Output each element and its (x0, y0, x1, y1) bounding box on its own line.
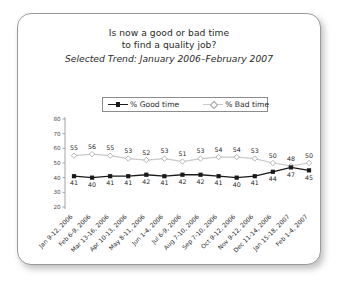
bad-time-point (107, 153, 112, 158)
good-time-point (90, 176, 94, 180)
y-axis-tick-label: 30 (53, 189, 61, 195)
good-time-point (198, 173, 202, 177)
y-axis-tick-label: 20 (53, 204, 61, 210)
bad-time-point (162, 156, 167, 161)
good-time-value-label: 40 (88, 181, 96, 188)
bad-time-point (144, 157, 149, 162)
bad-time-value-label: 56 (88, 143, 96, 150)
bad-time-value-label: 53 (197, 147, 205, 154)
good-time-point (307, 168, 311, 172)
bad-time-value-label: 50 (305, 152, 313, 159)
good-time-point (271, 170, 275, 174)
chart-plot-area: 20304050607080 5556555352535153545453504… (18, 14, 321, 265)
bad-time-value-label: 48 (287, 155, 295, 162)
bad-time-value-label: 51 (178, 150, 186, 157)
bad-time-point (180, 159, 185, 164)
x-axis-category-labels: Jan 9-12, 2006Feb 6-9, 2006Mar 13-16, 20… (37, 213, 309, 254)
y-axis: 20304050607080 (53, 116, 65, 210)
good-time-value-label: 41 (106, 179, 114, 186)
y-axis-tick-label: 50 (53, 160, 61, 166)
good-time-point (162, 174, 166, 178)
bad-time-point (198, 156, 203, 161)
bad-time-point (252, 156, 257, 161)
good-time-point (108, 174, 112, 178)
bad-time-value-label: 55 (70, 144, 78, 151)
good-time-value-label: 45 (305, 174, 313, 181)
good-time-point (289, 165, 293, 169)
y-axis-tick-label: 70 (53, 131, 61, 137)
good-time-value-label: 42 (178, 178, 186, 185)
good-time-value-label: 41 (215, 179, 223, 186)
bad-time-value-label: 54 (215, 146, 223, 153)
bad-time-point (126, 156, 131, 161)
good-time-point (72, 174, 76, 178)
good-time-value-label: 42 (197, 178, 205, 185)
bad-time-value-label: 53 (160, 147, 168, 154)
good-time-value-label: 41 (251, 179, 259, 186)
y-axis-tick-label: 40 (53, 175, 61, 181)
good-time-point (217, 174, 221, 178)
bad-time-point (270, 160, 275, 165)
y-axis-tick-label: 60 (53, 145, 61, 151)
bad-time-value-label: 54 (233, 146, 241, 153)
good-time-point (235, 176, 239, 180)
bad-time-point (89, 152, 94, 157)
bad-time-point (71, 153, 76, 158)
data-value-labels: 5556555352535153545453504850414041414241… (70, 143, 313, 188)
good-time-point (253, 174, 257, 178)
good-time-value-label: 42 (142, 178, 150, 185)
good-time-value-label: 47 (287, 171, 295, 178)
good-time-value-label: 41 (160, 179, 168, 186)
bad-time-value-label: 53 (124, 147, 132, 154)
chart-card: Is now a good or bad time to find a qual… (17, 13, 321, 265)
good-time-point (126, 174, 130, 178)
good-time-point (180, 173, 184, 177)
good-time-value-label: 40 (233, 181, 241, 188)
bad-time-value-label: 55 (106, 144, 114, 151)
bad-time-point (306, 160, 311, 165)
good-time-value-label: 41 (124, 179, 132, 186)
bad-time-value-label: 50 (269, 152, 277, 159)
bad-time-value-label: 52 (142, 149, 150, 156)
y-axis-tick-label: 80 (53, 116, 61, 122)
good-time-point (144, 173, 148, 177)
line-chart-svg: 20304050607080 5556555352535153545453504… (18, 14, 321, 265)
bad-time-point (234, 154, 239, 159)
bad-time-point (216, 154, 221, 159)
good-time-value-label: 44 (269, 175, 277, 182)
good-time-value-label: 41 (70, 179, 78, 186)
bad-time-value-label: 53 (251, 147, 259, 154)
